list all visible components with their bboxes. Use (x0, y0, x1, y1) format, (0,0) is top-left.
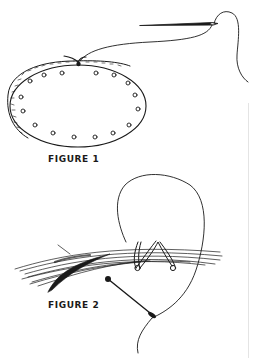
thread-icon (80, 25, 212, 61)
rim-texture (11, 62, 121, 133)
strand-bundle (15, 245, 222, 286)
oval-pad (10, 65, 146, 147)
figure-1-caption: FIGURE 1 (48, 154, 99, 164)
figure-2-drawing (15, 174, 222, 353)
needle-icon (140, 23, 218, 26)
perforation-holes (19, 71, 140, 139)
figure-1-drawing (8, 12, 248, 147)
pin-icon (105, 276, 157, 319)
thread-icon (214, 12, 248, 82)
illustration (0, 0, 259, 358)
figure-2-caption: FIGURE 2 (48, 300, 99, 310)
